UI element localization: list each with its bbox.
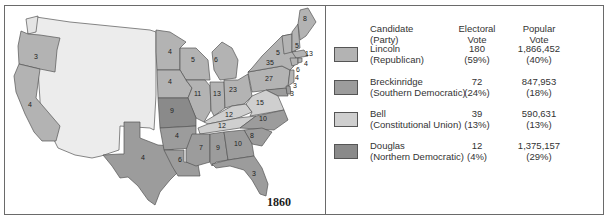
- svg-text:6: 6: [178, 156, 182, 163]
- candidate-party: (Republican): [370, 55, 424, 66]
- state-florida: [212, 156, 268, 196]
- candidate-party: (Constitutional Union): [370, 120, 461, 131]
- electoral-percent: (13%): [455, 120, 499, 131]
- svg-text:3: 3: [293, 82, 297, 89]
- svg-text:4: 4: [141, 154, 145, 161]
- panel-divider: [325, 5, 326, 215]
- header-popular: Popular Vote: [514, 24, 564, 45]
- electoral-votes: 72: [455, 77, 499, 88]
- svg-text:3: 3: [290, 90, 294, 97]
- popular-percent: (18%): [514, 88, 564, 99]
- electoral-percent: (24%): [455, 88, 499, 99]
- legend-row-lincoln: Lincoln (Republican) 180 (59%) 1,866,452…: [327, 44, 603, 74]
- svg-text:11: 11: [194, 90, 201, 97]
- svg-text:12: 12: [218, 122, 226, 129]
- svg-text:4: 4: [175, 132, 179, 139]
- svg-text:5: 5: [191, 56, 195, 63]
- legend-panel: Candidate (Party) Electoral Vote Popular…: [327, 6, 603, 214]
- popular-votes: 590,631: [514, 109, 564, 120]
- popular-cell: 590,631 (13%): [514, 109, 564, 130]
- svg-text:4: 4: [304, 60, 308, 67]
- svg-text:4: 4: [28, 101, 32, 108]
- header-candidate: Candidate (Party): [370, 24, 413, 45]
- electoral-votes: 39: [455, 109, 499, 120]
- popular-cell: 847,953 (18%): [514, 77, 564, 98]
- svg-text:13: 13: [213, 90, 221, 97]
- header-electoral-label: Electoral: [455, 24, 499, 35]
- svg-text:5: 5: [295, 42, 299, 49]
- map-year-label: 1860: [267, 195, 291, 210]
- svg-text:4: 4: [168, 48, 172, 55]
- header-popular-label: Popular: [514, 24, 564, 35]
- color-swatch-breckinridge: [334, 80, 358, 95]
- popular-percent: (40%): [514, 55, 564, 66]
- election-map: 3 4 4 4 5 4 6 11 13 23 27 35 5 5 8 13 4 …: [5, 6, 325, 214]
- candidate-party: (Northern Democratic): [370, 152, 464, 163]
- svg-text:7: 7: [199, 144, 203, 151]
- color-swatch-lincoln: [334, 47, 358, 62]
- candidate-name: Bell: [370, 109, 461, 120]
- svg-text:6: 6: [296, 66, 300, 73]
- state-maine: [298, 8, 316, 40]
- svg-text:6: 6: [214, 56, 218, 63]
- svg-text:35: 35: [266, 59, 274, 66]
- svg-text:8: 8: [250, 132, 254, 139]
- candidate-cell: Bell (Constitutional Union): [370, 109, 461, 130]
- candidate-name: Breckinridge: [370, 77, 466, 88]
- electoral-cell: 180 (59%): [455, 44, 499, 65]
- svg-text:9: 9: [170, 107, 174, 114]
- svg-text:5: 5: [276, 49, 280, 56]
- electoral-cell: 39 (13%): [455, 109, 499, 130]
- popular-votes: 1,866,452: [514, 44, 564, 55]
- electoral-votes: 180: [455, 44, 499, 55]
- svg-text:10: 10: [234, 140, 242, 147]
- legend-row-douglas: Douglas (Northern Democratic) 12 (4%) 1,…: [327, 141, 603, 171]
- electoral-cell: 12 (4%): [455, 141, 499, 162]
- state-wisconsin: [180, 48, 210, 80]
- candidate-name: Lincoln: [370, 44, 424, 55]
- svg-text:8: 8: [303, 15, 307, 22]
- legend-row-bell: Bell (Constitutional Union) 39 (13%) 590…: [327, 109, 603, 139]
- electoral-percent: (4%): [455, 152, 499, 163]
- legend-row-breckinridge: Breckinridge (Southern Democratic) 72 (2…: [327, 77, 603, 107]
- svg-text:4: 4: [295, 74, 299, 81]
- state-washington: [26, 16, 38, 34]
- svg-text:27: 27: [265, 75, 273, 82]
- popular-votes: 1,375,157: [514, 141, 564, 152]
- svg-text:4: 4: [168, 78, 172, 85]
- color-swatch-bell: [334, 112, 358, 127]
- electoral-percent: (59%): [455, 55, 499, 66]
- svg-text:9: 9: [216, 144, 220, 151]
- electoral-votes: 12: [455, 141, 499, 152]
- popular-percent: (13%): [514, 120, 564, 131]
- popular-cell: 1,375,157 (29%): [514, 141, 564, 162]
- svg-text:10: 10: [259, 115, 267, 122]
- color-swatch-douglas: [334, 144, 358, 159]
- candidate-cell: Douglas (Northern Democratic): [370, 141, 464, 162]
- electoral-cell: 72 (24%): [455, 77, 499, 98]
- svg-text:3: 3: [252, 170, 256, 177]
- svg-text:15: 15: [256, 99, 264, 106]
- candidate-name: Douglas: [370, 141, 464, 152]
- header-electoral: Electoral Vote: [455, 24, 499, 45]
- candidate-party: (Southern Democratic): [370, 88, 466, 99]
- svg-text:12: 12: [225, 111, 233, 118]
- popular-votes: 847,953: [514, 77, 564, 88]
- popular-cell: 1,866,452 (40%): [514, 44, 564, 65]
- svg-text:13: 13: [305, 50, 313, 57]
- popular-percent: (29%): [514, 152, 564, 163]
- candidate-cell: Lincoln (Republican): [370, 44, 424, 65]
- svg-text:3: 3: [34, 53, 38, 60]
- svg-text:23: 23: [229, 86, 237, 93]
- header-candidate-label: Candidate: [370, 24, 413, 35]
- candidate-cell: Breckinridge (Southern Democratic): [370, 77, 466, 98]
- state-vermont: [282, 34, 292, 54]
- state-rhode-island: [298, 58, 302, 63]
